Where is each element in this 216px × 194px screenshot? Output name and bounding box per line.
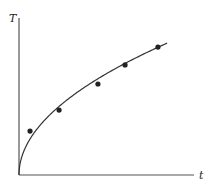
chart: T t [0, 0, 216, 194]
data-point [155, 44, 160, 49]
fit-curve [19, 43, 167, 175]
data-point [95, 81, 100, 86]
data-points [27, 44, 160, 133]
y-axis-label: T [9, 12, 18, 25]
data-point [56, 107, 61, 112]
data-point [122, 62, 127, 67]
data-point [27, 128, 32, 133]
x-axis-label: t [199, 169, 204, 182]
